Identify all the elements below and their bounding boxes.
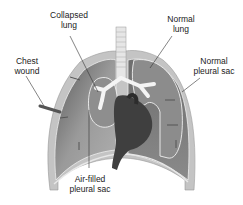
label-air-filled-pleural-sac-line1: Air-filled: [62, 174, 118, 184]
label-normal-pleural-sac-line1: Normal: [186, 56, 242, 66]
label-chest-wound: Chest wound: [8, 56, 46, 76]
label-normal-lung-line1: Normal: [160, 14, 202, 24]
label-air-filled-pleural-sac-line2: pleural sac: [62, 184, 118, 194]
label-chest-wound-line1: Chest: [8, 56, 46, 66]
label-normal-pleural-sac-line2: pleural sac: [186, 66, 242, 76]
label-collapsed-lung-line2: lung: [40, 20, 98, 30]
label-collapsed-lung: Collapsed lung: [40, 10, 98, 30]
trachea: [116, 27, 126, 79]
label-chest-wound-line2: wound: [8, 66, 46, 76]
pneumothorax-illustration: [0, 0, 243, 205]
label-air-filled-pleural-sac: Air-filled pleural sac: [62, 174, 118, 194]
label-normal-lung-line2: lung: [160, 24, 202, 34]
label-collapsed-lung-line1: Collapsed: [40, 10, 98, 20]
label-normal-lung: Normal lung: [160, 14, 202, 34]
label-normal-pleural-sac: Normal pleural sac: [186, 56, 242, 76]
